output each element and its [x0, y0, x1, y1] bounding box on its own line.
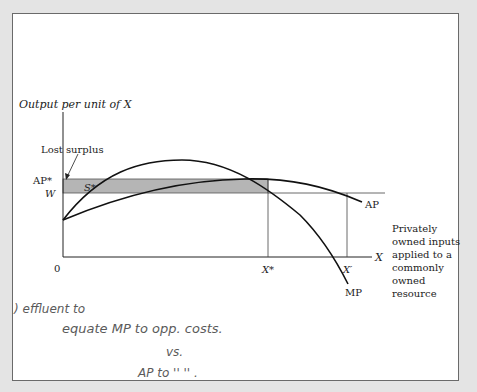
x-axis-label: X: [374, 251, 384, 264]
caption-line: commonly: [392, 262, 444, 273]
caption-line: owned: [392, 275, 426, 286]
lost-surplus-label: Lost surplus: [41, 144, 104, 155]
lost-surplus-arrow: [67, 154, 78, 177]
caption-line: applied to a: [392, 249, 452, 260]
caption-line: resource: [392, 288, 437, 299]
caption-line: owned inputs: [392, 236, 460, 247]
note-line-4: AP to '' '' .: [137, 366, 198, 380]
origin-label: 0: [54, 263, 60, 274]
x-star-label: X*: [261, 264, 274, 275]
note-line-1: ) effluent to: [13, 302, 85, 316]
mp-label: MP: [345, 287, 362, 298]
y-axis-label: Output per unit of X: [19, 98, 133, 111]
caption-line: Privately: [392, 223, 437, 234]
ap-label: AP: [364, 199, 379, 210]
caption: Privately owned inputs applied to a comm…: [392, 223, 460, 299]
handwritten-notes: ) effluent to equate MP to opp. costs. v…: [13, 302, 223, 380]
economics-diagram: Output per unit of X Lost surplus AP* W …: [0, 0, 477, 392]
w-label: W: [45, 188, 56, 199]
ap-star-label: AP*: [32, 175, 52, 186]
note-line-2: equate MP to opp. costs.: [62, 321, 223, 336]
s-star-label: S*: [84, 182, 96, 193]
x-prime-label: X′: [342, 264, 353, 275]
note-line-3: vs.: [166, 345, 183, 359]
